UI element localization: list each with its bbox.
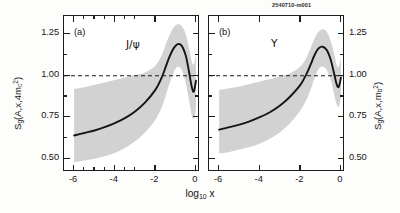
x-tick-label: -2: [285, 174, 313, 184]
x-major-tick: [195, 16, 196, 22]
y-minor-tick: [209, 54, 212, 55]
y-tick-label-left: 1.25: [27, 27, 59, 37]
x-tick-label: -6: [204, 174, 232, 184]
x-tick-label: -4: [245, 174, 273, 184]
x-major-tick: [299, 16, 300, 22]
y-tick-label-left: 0.75: [27, 110, 59, 120]
y-tick-label-right: 1.00: [349, 69, 381, 79]
y-minor-tick: [209, 137, 212, 138]
y-axis-title-right-symbol-sub: g: [376, 120, 383, 124]
x-major-tick: [154, 165, 155, 171]
y-axis-title-right: Sg(A,x,mb2): [372, 82, 383, 130]
y-major-tick: [193, 75, 199, 76]
x-minor-tick: [93, 167, 94, 170]
x-major-tick: [259, 16, 260, 22]
y-axis-title-right-body-sub: b: [376, 89, 383, 93]
y-axis-title-left-body-sup: 2: [12, 80, 19, 84]
y-axis-title-right-body: (A,x,m: [372, 92, 383, 120]
panel-b-species-label: Υ: [271, 37, 277, 49]
y-major-tick: [338, 158, 344, 159]
uncertainty-band-b: [219, 29, 341, 153]
y-tick-label-right: 1.25: [349, 27, 381, 37]
x-major-tick: [73, 16, 74, 22]
y-major-tick: [338, 33, 344, 34]
y-tick-label-left: 0.50: [27, 152, 59, 162]
y-major-tick: [64, 158, 70, 159]
x-tick-label: -6: [59, 174, 87, 184]
x-major-tick: [340, 16, 341, 22]
x-minor-tick: [124, 16, 125, 19]
y-major-tick: [338, 116, 344, 117]
y-minor-tick: [209, 95, 212, 96]
panel-a-species-label: J/ψ: [126, 38, 140, 50]
y-minor-tick: [340, 54, 343, 55]
y-minor-tick: [64, 54, 67, 55]
y-axis-title-left: Sg(A,x,4mc2): [12, 77, 23, 130]
y-axis-title-right-symbol: S: [372, 124, 383, 130]
y-minor-tick: [340, 137, 343, 138]
panel-a-tag: (a): [74, 26, 85, 37]
panel-b-tag: (b): [219, 26, 230, 37]
y-tick-label-right: 0.50: [349, 152, 381, 162]
x-major-tick: [114, 165, 115, 171]
x-tick-label: -2: [140, 174, 168, 184]
y-minor-tick: [340, 95, 343, 96]
x-axis-title-var: x: [210, 188, 215, 199]
x-major-tick: [299, 165, 300, 171]
x-tick-label: -4: [100, 174, 128, 184]
x-minor-tick: [134, 16, 135, 19]
x-minor-tick: [83, 167, 84, 170]
y-major-tick: [64, 33, 70, 34]
y-major-tick: [209, 116, 215, 117]
x-minor-tick: [83, 16, 84, 19]
y-minor-tick: [195, 137, 198, 138]
y-major-tick: [338, 75, 344, 76]
y-axis-title-left-close: ): [12, 77, 23, 80]
plot-panel-a: (a) J/ψ: [63, 15, 199, 171]
run-id-label: 2540710-m001: [272, 2, 311, 8]
x-axis-title-log: log: [185, 188, 199, 199]
x-major-tick: [114, 16, 115, 22]
x-axis-title: log10 x: [0, 188, 400, 200]
y-major-tick: [193, 116, 199, 117]
y-minor-tick: [64, 95, 67, 96]
x-minor-tick: [104, 16, 105, 19]
plot-panel-b: (b) Υ: [208, 15, 344, 171]
x-major-tick: [154, 16, 155, 22]
y-major-tick: [64, 116, 70, 117]
y-tick-label-left: 1.00: [27, 69, 59, 79]
x-major-tick: [218, 16, 219, 22]
x-major-tick: [73, 165, 74, 171]
x-minor-tick: [124, 167, 125, 170]
y-axis-title-left-body-sub: c: [16, 84, 23, 87]
y-minor-tick: [64, 137, 67, 138]
y-minor-tick: [195, 54, 198, 55]
y-axis-title-right-body-sup: 2: [372, 85, 379, 89]
x-axis-title-base: 10: [199, 193, 207, 200]
x-minor-tick: [104, 167, 105, 170]
x-major-tick: [259, 165, 260, 171]
y-axis-title-left-symbol: S: [12, 124, 23, 130]
y-major-tick: [209, 158, 215, 159]
x-tick-label: 0: [326, 174, 354, 184]
x-major-tick: [218, 165, 219, 171]
x-minor-tick: [93, 16, 94, 19]
y-major-tick: [209, 33, 215, 34]
y-axis-title-left-body: (A,x,4m: [12, 87, 23, 120]
y-major-tick: [193, 158, 199, 159]
y-major-tick: [64, 75, 70, 76]
figure-canvas: 2540710-m001 (a) J/ψ: [0, 0, 400, 213]
x-major-tick: [195, 165, 196, 171]
y-major-tick: [193, 33, 199, 34]
y-axis-title-left-symbol-sub: g: [16, 120, 23, 124]
x-minor-tick: [134, 167, 135, 170]
y-major-tick: [209, 75, 215, 76]
y-axis-title-right-close: ): [372, 82, 383, 85]
y-minor-tick: [195, 95, 198, 96]
x-major-tick: [340, 165, 341, 171]
